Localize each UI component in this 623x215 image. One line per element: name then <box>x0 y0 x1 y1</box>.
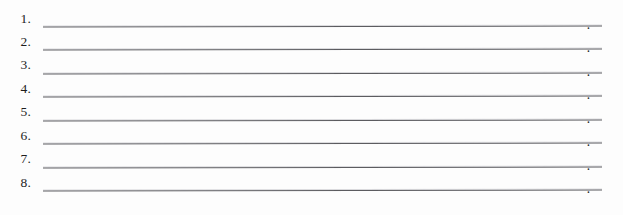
row-number: 4. <box>0 82 31 99</box>
answer-row: 7. . <box>0 146 623 169</box>
answer-blank-2[interactable]: . <box>43 32 602 52</box>
answer-row: 5. . <box>0 99 623 122</box>
row-number: 6. <box>0 129 31 146</box>
rule-line <box>43 72 602 74</box>
answer-row: 8. . <box>0 169 623 192</box>
answer-blank-7[interactable]: . <box>43 149 602 169</box>
rule-line <box>43 143 602 145</box>
answer-blank-8[interactable]: . <box>43 173 602 193</box>
answer-blank-1[interactable]: . <box>43 9 602 29</box>
answer-row: 3. . <box>0 52 623 75</box>
answer-lines-worksheet: 1. . 2. . 3. . 4. . 5. . 6. <box>0 0 623 215</box>
answer-row: 4. . <box>0 75 623 98</box>
answer-row: 6. . <box>0 122 623 145</box>
row-number: 5. <box>0 105 31 122</box>
row-number: 8. <box>0 176 31 193</box>
rule-line <box>43 190 602 192</box>
answer-blank-3[interactable]: . <box>43 55 602 75</box>
row-number: 2. <box>0 35 31 52</box>
rule-line <box>43 96 602 98</box>
answer-row: 1. . <box>0 5 623 28</box>
row-number: 7. <box>0 152 31 169</box>
line-terminator: . <box>587 181 590 195</box>
rule-line <box>43 119 602 121</box>
answer-row: 2. . <box>0 28 623 51</box>
rule-line <box>43 166 602 168</box>
answer-blank-4[interactable]: . <box>43 79 602 99</box>
answer-blank-5[interactable]: . <box>43 102 602 122</box>
answer-blank-6[interactable]: . <box>43 126 602 146</box>
row-number: 3. <box>0 58 31 75</box>
row-number: 1. <box>0 12 31 29</box>
rule-line <box>43 49 602 51</box>
